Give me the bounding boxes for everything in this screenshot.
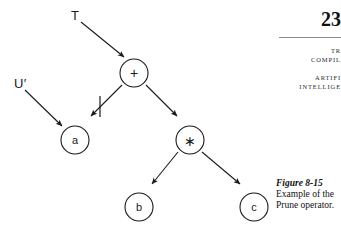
- figure-caption: Figure 8-15 Example of the Prune operato…: [276, 178, 341, 211]
- running-head-block-2: ARTIFI INTELLIGE: [277, 73, 341, 92]
- page-header: 23 TR COMPIL ARTIFI INTELLIGE: [277, 0, 341, 92]
- figure-caption-title: Figure 8-15: [276, 178, 341, 189]
- header-rule: [279, 37, 341, 38]
- arrow-t-to-plus: [81, 22, 124, 57]
- running-head-block-1: TR COMPIL: [277, 46, 341, 65]
- running-head-line-1b: COMPIL: [277, 55, 341, 64]
- node-plus-label: +: [130, 65, 138, 81]
- running-head-line-1a: TR: [277, 46, 341, 55]
- node-b-label: b: [136, 201, 142, 213]
- edge-plus-to-a: [91, 85, 122, 116]
- set-label-u-prime: U′: [14, 76, 26, 91]
- page-number: 23: [277, 9, 341, 29]
- running-head-line-2b: INTELLIGE: [277, 82, 341, 91]
- node-times-label: ∗: [184, 133, 196, 149]
- set-label-t: T: [71, 8, 79, 23]
- book-page: + a ∗ b c T U′ 23 TR COMPIL ARTIFI INTEL…: [0, 0, 341, 236]
- node-c-label: c: [251, 201, 257, 213]
- edge-times-to-b: [152, 152, 178, 184]
- running-head-line-2a: ARTIFI: [277, 73, 341, 82]
- arrow-uprime-to-a: [25, 90, 62, 126]
- node-a-label: a: [72, 134, 79, 146]
- edge-times-to-c: [202, 152, 240, 184]
- figure-caption-body: Example of the Prune operator.: [276, 189, 341, 211]
- edge-plus-to-times: [146, 85, 177, 116]
